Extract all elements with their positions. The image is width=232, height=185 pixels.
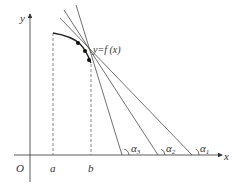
angle-label-1: α1 [200, 142, 209, 156]
angle-arc-3 [124, 149, 129, 155]
tangent-point-2 [83, 49, 87, 53]
tangent-line-1 [60, 18, 192, 155]
curve-f [53, 33, 91, 63]
angle-label-3: α3 [131, 142, 141, 156]
tangent-line-3 [76, 5, 122, 155]
tangent-point-3 [87, 58, 91, 62]
angle-label-2: α2 [166, 142, 176, 156]
tangent-line-2 [64, 10, 158, 155]
tangent-lines-diagram: y x O a b y=f (x) α3 α2 α1 [0, 0, 232, 185]
angle-arc-1 [196, 149, 199, 155]
curve-label: y=f (x) [92, 44, 121, 56]
angle-arc-2 [161, 149, 165, 155]
origin-label: O [16, 162, 24, 174]
tick-label-a: a [50, 162, 56, 174]
y-axis-label: y [19, 12, 25, 24]
tangent-point-1 [76, 41, 80, 45]
x-axis-label: x [223, 150, 229, 162]
tick-label-b: b [88, 162, 94, 174]
